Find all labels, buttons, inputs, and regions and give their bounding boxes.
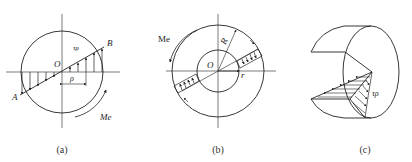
stress-arrows-right	[70, 49, 102, 72]
caption-a: (a)	[56, 144, 67, 155]
label-outer-radius: R	[218, 36, 230, 47]
label-inner-radius: r	[241, 70, 245, 80]
notch-upper	[311, 52, 372, 72]
caption-c: (c)	[359, 144, 370, 155]
label-tau-a: τρ	[73, 44, 80, 52]
left-arc-upper	[311, 26, 344, 52]
label-torque-a: Me	[99, 112, 112, 122]
figure-b	[166, 14, 276, 128]
cut-plane-diagonal	[350, 72, 372, 99]
caption-b: (b)	[212, 144, 224, 155]
label-point-b: B	[107, 38, 113, 48]
rho-dimension	[62, 72, 86, 86]
tangent-arrow-lower	[184, 98, 188, 102]
stress-band-upper	[237, 49, 262, 68]
label-rho: ρ	[69, 74, 74, 83]
figure-c-labels: τρ	[372, 89, 379, 98]
label-origin-b: O	[207, 60, 214, 70]
torsion-diagram: O τρ B A ρ Me	[0, 0, 412, 162]
label-point-a: A	[11, 92, 18, 102]
stress-band-lower	[174, 74, 199, 93]
label-origin-a: O	[54, 59, 61, 69]
label-tau-c: τρ	[372, 89, 379, 98]
figure-a	[6, 14, 120, 128]
figure-c	[311, 26, 399, 118]
label-torque-b: Me	[158, 34, 170, 44]
cut-plane-vertical	[350, 99, 365, 118]
left-arc-lower	[311, 99, 344, 118]
